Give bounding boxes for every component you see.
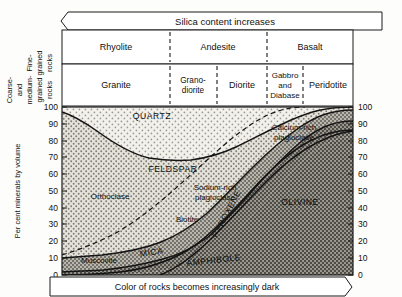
cell-granodiorite-line-1: Grano- [180,76,206,85]
row-label-coarse-line-4: grained [35,77,44,102]
y-tick-left-60: 60 [49,169,59,179]
label-olivine: OLIVINE [281,197,319,207]
cell-peridotite: Peridotite [309,80,347,90]
row-label-coarse-line-5: rocks [45,81,54,99]
y-tick-right-80: 80 [358,136,368,146]
label-biotite: Biotite [176,215,199,224]
igneous-rock-mineral-composition-diagram: Silica content increases Fine- grained r… [0,0,402,297]
rock-table-coarse-medium-row: Granite Grano- diorite Diorite Gabbro an… [62,64,353,106]
y-tick-left-90: 90 [49,119,59,129]
top-banner-label: Silica content increases [175,16,275,27]
y-tick-right-70: 70 [358,152,368,162]
row-label-coarse-line-1: Coarse- [5,76,14,103]
y-tick-left-100: 100 [44,102,58,112]
bottom-banner-label: Color of rocks becomes increasingly dark [115,282,280,292]
y-tick-left-20: 20 [49,236,59,246]
label-quartz: QUARTZ [133,111,171,121]
cell-gabbro-line-2: and [278,81,291,90]
label-orthoclase: Orthoclase [91,192,130,201]
cell-granite: Granite [101,80,131,90]
top-banner: Silica content increases [61,12,382,30]
label-muscovite: Muscovite [81,256,118,265]
y-tick-left-80: 80 [49,136,59,146]
label-sodium-plagioclase-line-1: Sodium-rich [194,183,237,192]
y-tick-right-30: 30 [358,219,368,229]
cell-andesite: Andesite [200,42,235,52]
y-tick-right-100: 100 [358,102,372,112]
y-tick-left-30: 30 [49,219,59,229]
row-label-fine-line-3: rocks [45,54,54,72]
row-label-coarse-line-3: medium- [25,75,34,105]
cell-granodiorite-line-2: diorite [182,86,205,95]
diagram-canvas: Silica content increases Fine- grained r… [0,0,402,297]
y-tick-left-10: 10 [49,253,59,263]
cell-rhyolite: Rhyolite [100,42,133,52]
cell-basalt: Basalt [297,42,323,52]
y-axis-title: Per cent minerals by volume [13,144,22,239]
y-tick-right-20: 20 [358,236,368,246]
y-tick-left-40: 40 [49,203,59,213]
y-tick-right-60: 60 [358,169,368,179]
y-tick-right-90: 90 [358,119,368,129]
cell-diorite: Diorite [229,80,255,90]
cell-gabbro-line-3: Diabase [270,91,300,100]
row-label-fine-line-2: grained [35,50,44,75]
y-tick-left-50: 50 [49,186,59,196]
label-feldspar: FELDSPAR [148,164,197,174]
rock-table-fine-grained-row: Rhyolite Andesite Basalt [62,30,353,64]
label-calcium-plagioclase-line-1: Calcium-rich [272,123,316,132]
y-tick-left-70: 70 [49,152,59,162]
y-tick-right-50: 50 [358,186,368,196]
label-calcium-plagioclase-line-2: plagioclase [274,133,315,142]
y-tick-right-40: 40 [358,203,368,213]
y-tick-right-0: 0 [358,270,363,280]
row-label-fine-line-1: Fine- [25,54,34,72]
row-label-coarse-line-2: and [15,84,24,97]
bottom-banner: Color of rocks becomes increasingly dark [50,277,352,296]
cell-gabbro-line-1: Gabbro [272,71,299,80]
y-tick-right-10: 10 [358,253,368,263]
